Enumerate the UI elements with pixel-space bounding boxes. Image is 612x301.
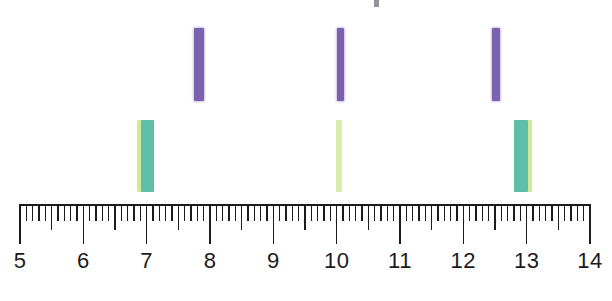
ruler-tick-8.0 xyxy=(209,204,211,244)
ruler-tick-11.9 xyxy=(456,204,458,221)
ruler-tick-13.7 xyxy=(570,204,572,221)
ruler-tick-10.7 xyxy=(380,204,382,221)
ruler-tick-6.2 xyxy=(95,204,97,221)
ruler-label-8: 8 xyxy=(204,250,217,272)
ruler-tick-5.5 xyxy=(51,204,53,230)
ruler-tick-10.9 xyxy=(393,204,395,221)
ruler-tick-9.8 xyxy=(323,204,325,221)
ruler-tick-12.9 xyxy=(520,204,522,221)
ruler-tick-10.5 xyxy=(368,204,370,230)
ruler xyxy=(20,204,590,246)
ruler-tick-11.6 xyxy=(437,204,439,221)
ruler-tick-8.9 xyxy=(266,204,268,221)
green-bar-2-core xyxy=(336,120,342,192)
ruler-tick-5.3 xyxy=(38,204,40,221)
ruler-tick-13.4 xyxy=(551,204,553,221)
ruler-tick-14.0 xyxy=(589,204,591,244)
ruler-tick-9.5 xyxy=(304,204,306,230)
ruler-tick-7.1 xyxy=(152,204,154,221)
ruler-tick-9.3 xyxy=(292,204,294,221)
ruler-tick-5.4 xyxy=(45,204,47,221)
ruler-tick-13.9 xyxy=(583,204,585,221)
ruler-tick-9.7 xyxy=(317,204,319,221)
ruler-tick-10.2 xyxy=(349,204,351,221)
green-bar-1 xyxy=(137,120,154,192)
ruler-tick-8.6 xyxy=(247,204,249,221)
ruler-tick-13.0 xyxy=(526,204,528,244)
ruler-tick-7.6 xyxy=(184,204,186,221)
crop-artifact xyxy=(374,0,379,7)
ruler-tick-7.3 xyxy=(165,204,167,221)
ruler-tick-12.1 xyxy=(469,204,471,221)
ruler-tick-9.2 xyxy=(285,204,287,221)
ruler-tick-11.2 xyxy=(412,204,414,221)
ruler-tick-13.5 xyxy=(558,204,560,230)
ruler-tick-7.8 xyxy=(197,204,199,221)
ruler-label-9: 9 xyxy=(267,250,280,272)
ruler-tick-12.8 xyxy=(513,204,515,221)
ruler-tick-5.9 xyxy=(76,204,78,221)
ruler-label-10: 10 xyxy=(324,250,349,272)
ruler-tick-12.3 xyxy=(482,204,484,221)
purple-bar-2 xyxy=(337,28,344,101)
ruler-tick-5.8 xyxy=(70,204,72,221)
green-bar-1-core xyxy=(141,120,154,192)
ruler-tick-8.8 xyxy=(260,204,262,221)
green-bar-2 xyxy=(336,120,342,192)
ruler-tick-7.5 xyxy=(178,204,180,230)
ruler-tick-11.3 xyxy=(418,204,420,221)
ruler-tick-12.6 xyxy=(501,204,503,221)
ruler-tick-12.7 xyxy=(507,204,509,221)
ruler-tick-5.7 xyxy=(64,204,66,221)
ruler-tick-12.4 xyxy=(488,204,490,221)
ruler-tick-11.5 xyxy=(431,204,433,230)
ruler-tick-6.0 xyxy=(83,204,85,244)
ruler-tick-6.6 xyxy=(121,204,123,221)
ruler-tick-13.3 xyxy=(545,204,547,221)
ruler-tick-8.3 xyxy=(228,204,230,221)
ruler-tick-8.1 xyxy=(216,204,218,221)
ruler-tick-10.3 xyxy=(355,204,357,221)
ruler-tick-10.0 xyxy=(336,204,338,244)
ruler-label-7: 7 xyxy=(140,250,153,272)
ruler-tick-9.6 xyxy=(311,204,313,221)
ruler-tick-6.8 xyxy=(133,204,135,221)
ruler-tick-8.4 xyxy=(235,204,237,221)
ruler-tick-13.1 xyxy=(532,204,534,221)
ruler-tick-9.9 xyxy=(330,204,332,221)
ruler-tick-8.7 xyxy=(254,204,256,221)
purple-bar-1 xyxy=(194,28,204,101)
ruler-tick-6.5 xyxy=(114,204,116,230)
ruler-tick-7.2 xyxy=(159,204,161,221)
ruler-tick-6.3 xyxy=(102,204,104,221)
ruler-tick-11.1 xyxy=(406,204,408,221)
ruler-label-14: 14 xyxy=(577,250,602,272)
ruler-tick-7.4 xyxy=(171,204,173,221)
green-bar-3 xyxy=(514,120,532,192)
ruler-tick-7.0 xyxy=(146,204,148,244)
ruler-tick-11.8 xyxy=(450,204,452,221)
ruler-label-6: 6 xyxy=(77,250,90,272)
ruler-label-5: 5 xyxy=(14,250,27,272)
ruler-tick-5.6 xyxy=(57,204,59,221)
ruler-tick-12.0 xyxy=(463,204,465,244)
ruler-tick-13.8 xyxy=(577,204,579,221)
ruler-tick-13.2 xyxy=(539,204,541,221)
ruler-label-11: 11 xyxy=(388,250,412,272)
ruler-tick-11.7 xyxy=(444,204,446,221)
purple-bar-3 xyxy=(492,28,500,101)
ruler-tick-11.0 xyxy=(399,204,401,244)
ruler-tick-10.8 xyxy=(387,204,389,221)
ruler-tick-12.2 xyxy=(475,204,477,221)
ruler-tick-5.1 xyxy=(26,204,28,221)
ruler-tick-5.0 xyxy=(19,204,21,244)
ruler-tick-10.4 xyxy=(361,204,363,221)
ruler-tick-6.7 xyxy=(127,204,129,221)
green-bar-3-core xyxy=(514,120,528,192)
ruler-tick-13.6 xyxy=(564,204,566,221)
ruler-tick-6.4 xyxy=(108,204,110,221)
ruler-tick-9.4 xyxy=(298,204,300,221)
ruler-tick-7.7 xyxy=(190,204,192,221)
ruler-tick-12.5 xyxy=(494,204,496,230)
ruler-tick-8.2 xyxy=(222,204,224,221)
